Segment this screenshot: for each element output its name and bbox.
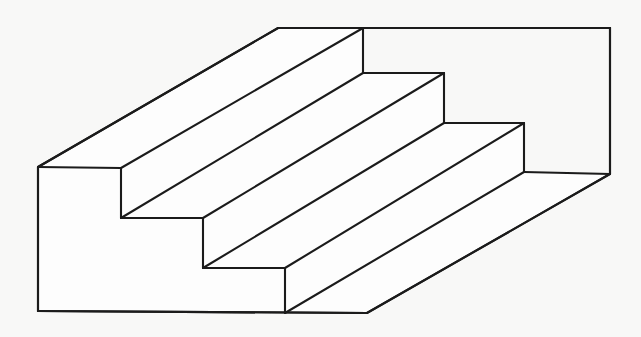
staircase-figure: Isometric staircase line drawing Black-o… (0, 0, 641, 337)
drawing-canvas: Isometric staircase line drawing Black-o… (0, 0, 641, 337)
edge-step-ledge-1 (38, 167, 121, 168)
